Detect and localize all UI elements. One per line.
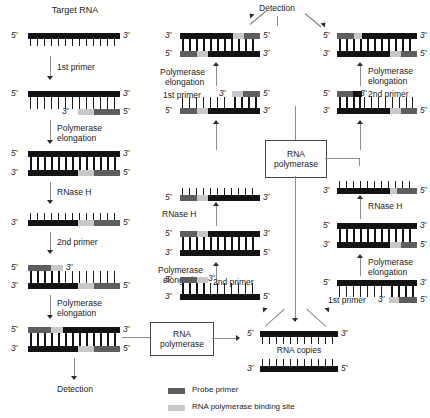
duplex-bottom-strand	[180, 250, 260, 256]
label-polymerase: Polymerase	[160, 67, 205, 77]
cdna-ticks	[28, 213, 120, 220]
diagonal-arrow-right	[305, 13, 322, 27]
end-label-5prime: 5'	[11, 30, 17, 40]
first-primer-strand	[78, 109, 120, 115]
strand-backbone	[180, 195, 260, 201]
recycle-arrow-head-left	[260, 305, 267, 312]
flow-arrow-line	[360, 199, 361, 219]
end-label-3prime: 3'	[11, 217, 17, 227]
recycle-arrow-left	[265, 309, 285, 327]
flow-arrow-line	[360, 258, 361, 276]
end-label-3prime: 3'	[123, 88, 129, 98]
end-label-5prime: 5'	[123, 343, 129, 353]
end-label-5prime: 5'	[123, 217, 129, 227]
end-label-3prime: 3'	[11, 167, 17, 177]
end-label-5prime: 5'	[11, 88, 17, 98]
legend-swatch-probe-primer	[168, 388, 185, 394]
end-label-3prime: 3'	[323, 185, 329, 195]
end-label-5prime: 5'	[323, 30, 329, 40]
end-label-3prime: 3'	[420, 277, 426, 287]
cdna-backbone	[28, 220, 120, 226]
flow-arrow-head	[357, 62, 363, 66]
end-label-5prime: 5'	[165, 192, 171, 202]
box-connector-arrowhead	[292, 318, 298, 322]
end-label-3prime: 3'	[123, 148, 129, 158]
box-connector-right	[325, 158, 359, 159]
label-elongation: elongation	[165, 77, 204, 87]
duplex-bottom-strand	[337, 242, 417, 248]
primer-rungs	[337, 97, 362, 108]
primer-rungs	[389, 286, 417, 297]
rna-polymerase-box-upper[interactable]: RNA polymerase	[265, 140, 327, 178]
box-connector-up	[295, 106, 296, 140]
template-ticks	[362, 97, 417, 108]
cdna-bottom-strand	[28, 170, 120, 176]
label-elongation: elongation	[368, 267, 407, 277]
box-output-line	[212, 338, 237, 339]
recycle-arrow-head-right	[324, 305, 331, 312]
flow-arrow-head	[71, 376, 77, 380]
end-label-3prime: 3'	[420, 30, 426, 40]
flow-arrow-head	[357, 254, 363, 258]
dsdna-bottom-strand	[337, 51, 417, 57]
rna-copy-strand-bottom	[260, 366, 338, 372]
flow-arrow-line	[50, 56, 51, 78]
end-label-3prime: 3'	[208, 273, 214, 283]
rna-polymerase-box-lower[interactable]: RNA polymerase	[150, 322, 214, 356]
label-polymerase: Polymerase	[368, 257, 413, 267]
recycle-arrow-right	[306, 309, 326, 327]
label-elongation: elongation	[368, 76, 407, 86]
rna-copy-ticks-bottom	[260, 359, 338, 366]
template-strand	[337, 108, 417, 114]
flow-arrow-head	[47, 315, 53, 319]
flow-arrow-line	[50, 120, 51, 142]
flow-arrow-line	[74, 358, 75, 378]
end-label-5prime: 5'	[165, 228, 171, 238]
flow-arrow-head	[47, 76, 53, 80]
end-label-5prime: 5'	[341, 363, 347, 373]
flow-arrow-line	[360, 66, 361, 86]
dsdna-bottom-strand	[28, 346, 120, 352]
template-ticks	[63, 271, 120, 283]
label-second-primer-left: 2nd primer	[57, 237, 98, 247]
end-label-5prime: 5'	[165, 48, 171, 58]
flow-arrow-head	[213, 62, 219, 66]
template-ticks	[208, 283, 260, 294]
box-output-arrowhead	[236, 335, 240, 341]
duplex-rungs	[28, 157, 120, 170]
end-label-5prime: 5'	[11, 148, 17, 158]
end-label-3prime: 3'	[11, 280, 17, 290]
label-polymerase: Polymerase	[57, 123, 102, 133]
flow-arrow-line	[50, 232, 51, 252]
end-label-5prime: 5'	[123, 280, 129, 290]
label-elongation: elongation	[57, 133, 96, 143]
box-line-1: RNA	[274, 149, 318, 160]
strand-ticks	[337, 181, 417, 188]
end-label-3prime: 3'	[247, 363, 253, 373]
duplex-rungs	[28, 333, 120, 346]
end-label-5prime: 5'	[420, 105, 426, 115]
target-rna-title: Target RNA	[52, 5, 99, 15]
primer-rungs	[180, 283, 208, 294]
flow-arrow-head	[213, 202, 219, 206]
flow-arrow-head	[47, 250, 53, 254]
flow-arrow-head	[47, 140, 53, 144]
end-label-3prime: 3'	[11, 343, 17, 353]
box-connector-right-down	[359, 158, 360, 166]
end-label-5prime: 5'	[165, 105, 171, 115]
end-label-5prime: 5'	[165, 274, 171, 284]
flow-arrow-line	[216, 66, 217, 86]
end-label-3prime: 3'	[165, 30, 171, 40]
box-line-2: polymerase	[274, 159, 318, 170]
label-detection-left: Detection	[57, 384, 93, 394]
flow-arrow-line	[216, 124, 217, 150]
template-ticks	[180, 97, 232, 108]
first-primer-strand	[389, 297, 417, 303]
label-rnase-h-mid: RNase H	[162, 209, 196, 219]
flow-arrow-line	[50, 295, 51, 317]
rna-copy-ticks-top	[260, 337, 338, 344]
end-label-5prime: 5'	[263, 291, 269, 301]
flow-arrow-head	[357, 195, 363, 199]
end-label-3prime: 3'	[62, 106, 68, 116]
end-label-5prime: 5'	[247, 328, 253, 338]
